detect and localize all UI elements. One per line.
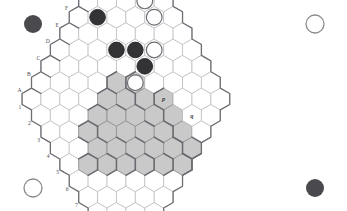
axis-letter-label: A xyxy=(17,87,21,93)
black-stone[interactable] xyxy=(127,42,143,58)
axis-number-label: 1 xyxy=(18,104,21,110)
corner-marker-bottom-right xyxy=(306,179,324,197)
hex-board-figure: ABCDEFGHIJK1234567891011 pq xyxy=(0,0,347,211)
hex-cells-layer xyxy=(22,0,230,211)
axis-number-label: 5 xyxy=(56,169,59,175)
corner-marker-top-left xyxy=(24,15,42,33)
hex-cell-text-label: p xyxy=(161,95,165,102)
black-stone[interactable] xyxy=(90,9,106,25)
axis-letter-label: B xyxy=(27,71,31,77)
white-stone[interactable] xyxy=(127,75,143,91)
axis-number-label: 6 xyxy=(66,186,69,192)
white-stone[interactable] xyxy=(146,42,162,58)
axis-letter-label: F xyxy=(65,5,68,11)
corner-marker-bottom-left xyxy=(24,179,42,197)
black-stone[interactable] xyxy=(109,42,125,58)
black-stone[interactable] xyxy=(137,58,153,74)
axis-number-label: 4 xyxy=(47,153,50,159)
axis-number-label: 2 xyxy=(28,120,31,126)
axis-letter-label: D xyxy=(46,38,50,44)
axis-letter-label: E xyxy=(56,22,60,28)
axis-number-label: 3 xyxy=(37,137,40,143)
corner-marker-top-right xyxy=(306,15,324,33)
axis-number-label: 7 xyxy=(75,202,78,208)
axis-letter-label: C xyxy=(36,55,40,61)
hex-board-svg: ABCDEFGHIJK1234567891011 pq xyxy=(0,0,347,211)
white-stone[interactable] xyxy=(146,9,162,25)
